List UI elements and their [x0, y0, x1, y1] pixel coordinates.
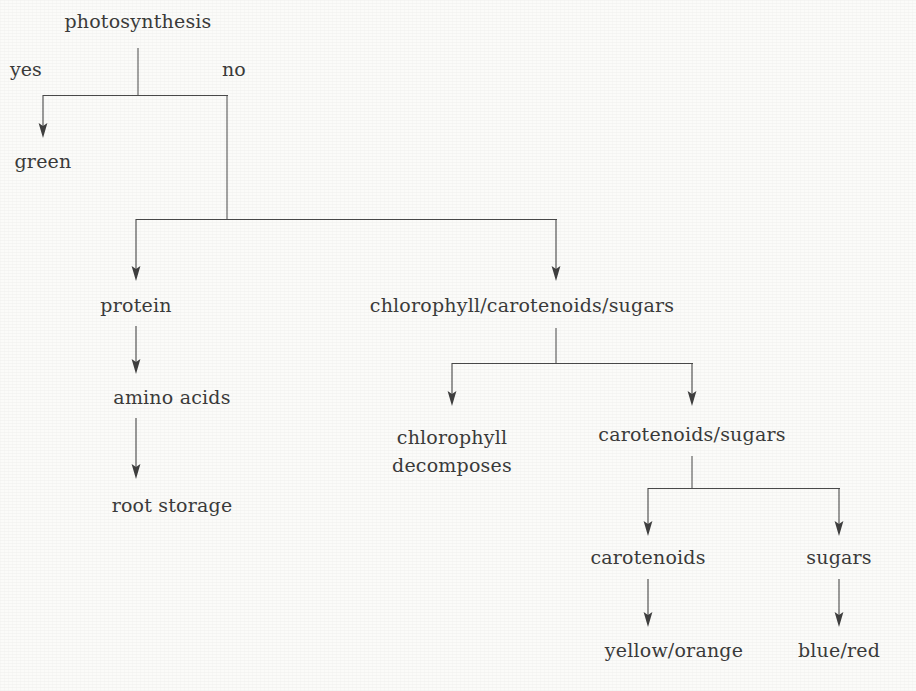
arrow-photosynthesis-to-green	[36, 95, 50, 140]
connector-chl-car-sug-stem	[556, 328, 557, 363]
arrow-to-chlorophyll-decomposes	[445, 363, 459, 408]
node-yellow-orange: yellow/orange	[605, 639, 743, 662]
node-protein: protein	[100, 294, 171, 317]
arrow-to-protein	[129, 219, 143, 283]
node-chlorophyll-decomposes: chlorophyll decomposes	[362, 423, 542, 479]
node-carotenoids-sugars: carotenoids/sugars	[598, 423, 785, 446]
node-photosynthesis: photosynthesis	[64, 10, 211, 33]
arrow-to-carotenoids-sugars	[685, 363, 699, 408]
arrow-protein-to-amino-acids	[129, 326, 143, 376]
connector-split4-bar	[648, 488, 840, 489]
node-amino-acids: amino acids	[113, 386, 230, 409]
edge-label-yes: yes	[10, 58, 42, 81]
connector-split1-bar	[43, 95, 228, 96]
node-sugars: sugars	[806, 546, 872, 569]
arrow-to-carotenoids	[641, 488, 655, 538]
scan-grain-overlay	[0, 0, 916, 691]
connector-split3-bar	[452, 363, 693, 364]
arrow-to-chlorophyll-carotenoids-sugars	[549, 219, 563, 283]
diagram-canvas: photosynthesis yes no green protein amin…	[0, 0, 916, 691]
node-chlorophyll-carotenoids-sugars: chlorophyll/carotenoids/sugars	[370, 294, 674, 317]
connector-carotenoids-sugars-stem	[692, 456, 693, 488]
node-chlorophyll-decomposes-line1: chlorophyll	[397, 426, 507, 448]
arrow-carotenoids-to-yellow-orange	[641, 579, 655, 629]
arrow-to-sugars	[832, 488, 846, 538]
node-green: green	[15, 150, 72, 173]
connector-no-branch-drop	[227, 95, 228, 219]
connector-split2-bar	[136, 219, 557, 220]
node-chlorophyll-decomposes-line2: decomposes	[392, 454, 512, 476]
node-carotenoids: carotenoids	[590, 546, 705, 569]
node-blue-red: blue/red	[798, 639, 880, 662]
edge-label-no: no	[222, 58, 246, 81]
arrow-amino-acids-to-root-storage	[129, 418, 143, 481]
arrow-sugars-to-blue-red	[832, 579, 846, 629]
connector-root-stem	[138, 48, 139, 95]
node-root-storage: root storage	[112, 494, 233, 517]
